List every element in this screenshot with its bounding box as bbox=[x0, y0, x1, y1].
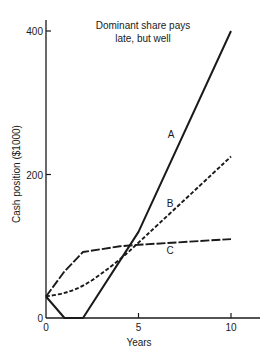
x-tick-label: 5 bbox=[136, 322, 142, 333]
y-tick-label: 400 bbox=[26, 26, 43, 37]
chart: 0200400 0510 ABC Dominant share pays lat… bbox=[0, 0, 274, 354]
axes bbox=[46, 20, 260, 318]
x-ticks: 0510 bbox=[43, 313, 237, 333]
x-tick-label: 0 bbox=[43, 322, 49, 333]
series-labels: ABC bbox=[166, 129, 174, 256]
y-axis-label: Cash position ($1000) bbox=[11, 125, 22, 223]
x-tick-label: 10 bbox=[225, 322, 237, 333]
y-tick-label: 200 bbox=[26, 170, 43, 181]
series-line-a bbox=[46, 31, 231, 318]
series-lines bbox=[46, 31, 231, 318]
chart-title-line-1: Dominant share pays bbox=[96, 20, 191, 31]
x-axis-label: Years bbox=[126, 337, 151, 348]
series-label-a: A bbox=[168, 129, 175, 140]
series-label-c: C bbox=[166, 245, 173, 256]
y-ticks: 0200400 bbox=[26, 26, 51, 324]
series-line-c bbox=[46, 239, 231, 296]
series-line-b bbox=[46, 157, 231, 297]
series-label-b: B bbox=[167, 198, 174, 209]
chart-title-line-2: late, but well bbox=[115, 33, 171, 44]
